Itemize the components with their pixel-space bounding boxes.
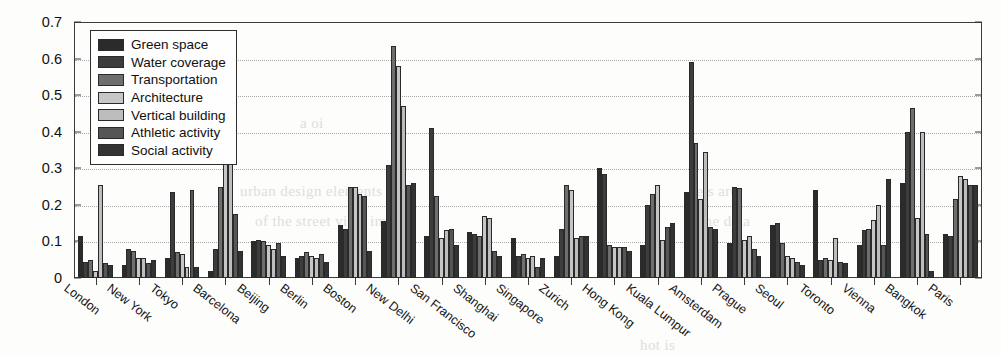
y-axis-tick-mark [74,22,81,23]
legend: Green spaceWater coverageTransportationA… [90,30,237,165]
legend-swatch-icon [98,74,124,86]
bar-group [593,22,636,278]
y-axis-tick-label: 0.7 [42,14,62,30]
x-axis-tick-mark [355,278,356,285]
bar-group [247,22,290,278]
legend-item[interactable]: Transportation [98,71,226,89]
bar[interactable] [497,256,502,278]
x-axis-tick-label: Barcelona [191,281,244,327]
bar[interactable] [843,263,848,278]
x-axis-tick-mark [139,278,140,285]
bar-group [896,22,939,278]
legend-item[interactable]: Vertical building [98,106,226,124]
y-axis-tick-mark-right [975,131,982,132]
x-axis-tick-mark [528,278,529,285]
bar-group [809,22,852,278]
x-axis-tick-label: Vienna [839,281,878,316]
legend-item-label: Athletic activity [131,125,220,140]
bar-group [636,22,679,278]
bar[interactable] [190,190,195,278]
legend-swatch-icon [98,109,124,121]
x-axis-tick-mark [225,278,226,285]
y-axis-tick-mark-right [975,204,982,205]
legend-item[interactable]: Green space [98,36,226,54]
bar[interactable] [324,262,329,278]
bar[interactable] [627,251,632,278]
x-axis-tick-label: Boston [320,281,359,316]
bar[interactable] [929,271,934,278]
bar[interactable] [151,260,156,278]
bar[interactable] [540,258,545,278]
y-axis-tick-mark-right [975,22,982,23]
bar-group [420,22,463,278]
x-axis-tick-mark [831,278,832,285]
bar-group [723,22,766,278]
grouped-bar-chart: 00.10.20.30.40.50.60.7 LondonNew YorkTok… [0,0,1001,355]
y-axis-tick-label: 0.1 [42,233,62,249]
x-axis-tick-label: Zurich [537,281,573,313]
y-axis-tick-mark [74,95,81,96]
bar[interactable] [757,256,762,278]
x-axis-tick-label: Beijing [234,281,272,315]
x-axis-tick-mark [658,278,659,285]
x-axis-tick-mark [485,278,486,285]
legend-item-label: Water coverage [131,55,226,70]
bar[interactable] [973,185,978,278]
x-axis-tick-label: Seoul [753,281,787,312]
x-axis-tick-mark [917,278,918,285]
legend-item[interactable]: Social activity [98,142,226,160]
x-axis-tick-label: Paris [926,281,957,310]
bar[interactable] [800,265,805,278]
bar[interactable] [713,229,718,278]
x-axis-tick-mark [442,278,443,285]
x-axis-tick-mark [874,278,875,285]
y-axis-tick-label: 0.2 [42,197,62,213]
x-axis-tick-mark [960,278,961,285]
y-axis-tick-mark-right [975,278,982,279]
x-axis-tick-mark [398,278,399,285]
bar-group [506,22,549,278]
bar[interactable] [108,265,113,278]
y-axis-tick-mark [74,58,81,59]
legend-swatch-icon [98,144,124,156]
bar[interactable] [367,251,372,278]
legend-swatch-icon [98,92,124,104]
bar[interactable] [194,267,199,278]
legend-item[interactable]: Architecture [98,89,226,107]
legend-swatch-icon [98,56,124,68]
y-axis-tick-mark-right [975,58,982,59]
y-axis-tick-mark [74,168,81,169]
x-axis-tick-mark [269,278,270,285]
bar[interactable] [238,251,243,278]
bar-group [377,22,420,278]
legend-item-label: Transportation [131,72,218,87]
legend-item[interactable]: Water coverage [98,54,226,72]
bar-group [463,22,506,278]
bar[interactable] [886,179,891,278]
x-axis-tick-label: Toronto [796,281,837,318]
bar-group [333,22,376,278]
bar[interactable] [454,245,459,278]
legend-item-label: Vertical building [131,108,226,123]
x-axis-tick-label: London [61,281,102,318]
y-axis-tick-mark-right [975,168,982,169]
y-axis-tick-mark-right [975,241,982,242]
legend-swatch-icon [98,39,124,51]
x-axis-tick-label: New York [104,281,154,325]
x-axis-tick-mark [571,278,572,285]
bar[interactable] [281,256,286,278]
y-axis-tick-mark [74,131,81,132]
bar[interactable] [670,223,675,278]
bar-group [766,22,809,278]
y-axis-tick-mark [74,241,81,242]
x-axis-tick-mark [182,278,183,285]
legend-item[interactable]: Athletic activity [98,124,226,142]
bar[interactable] [584,236,589,278]
x-axis-tick-mark [614,278,615,285]
y-axis-tick-mark [74,204,81,205]
x-axis-tick-mark [744,278,745,285]
x-axis-tick-mark [96,278,97,285]
legend-item-label: Green space [131,37,208,52]
y-axis-tick-mark-right [975,95,982,96]
bar[interactable] [411,183,416,278]
